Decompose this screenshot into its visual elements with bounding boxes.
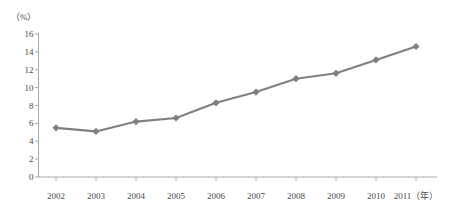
- y-axis-tick-label: 2: [12, 154, 34, 164]
- data-point-marker: [372, 56, 379, 63]
- x-axis-tick-label: 2004: [127, 191, 145, 202]
- x-axis-tick-label: 2002: [47, 191, 65, 202]
- data-point-marker: [52, 124, 59, 131]
- y-axis-tick-label: 4: [12, 136, 34, 146]
- y-axis-tick-label: 12: [12, 65, 34, 75]
- data-point-markers: [52, 43, 419, 135]
- x-axis-tick-label: 2005: [167, 191, 185, 202]
- y-axis-tick-label: 14: [12, 47, 34, 57]
- data-point-marker: [252, 88, 259, 95]
- chart-axes: [39, 33, 438, 177]
- data-point-marker: [172, 114, 179, 121]
- y-axis-tick-label: 16: [12, 29, 34, 39]
- data-point-marker: [92, 128, 99, 135]
- chart-plot-area: [0, 0, 451, 217]
- data-point-marker: [212, 99, 219, 106]
- line-chart: （%） 1614121086420 2002200320042005200620…: [0, 0, 451, 217]
- y-axis-tick-label: 10: [12, 83, 34, 93]
- x-axis-tick-label: 2008: [287, 191, 305, 202]
- data-series-line: [56, 47, 416, 132]
- x-axis-tick-label: 2010: [367, 191, 385, 202]
- chart-tick-marks: [35, 34, 416, 181]
- x-axis-tick-label: 2009: [327, 191, 345, 202]
- data-point-marker: [292, 75, 299, 82]
- x-axis-tick-label: 2007: [247, 191, 265, 202]
- x-axis-tick-label: 2003: [87, 191, 105, 202]
- x-axis-tick-label: 2006: [207, 191, 225, 202]
- data-point-marker: [132, 118, 139, 125]
- y-axis-tick-label: 8: [12, 101, 34, 111]
- data-point-marker: [412, 43, 419, 50]
- y-axis-tick-label: 6: [12, 118, 34, 128]
- x-axis-tick-label: 2011（年）: [394, 191, 439, 202]
- data-point-marker: [332, 70, 339, 77]
- y-axis-tick-label: 0: [12, 172, 34, 182]
